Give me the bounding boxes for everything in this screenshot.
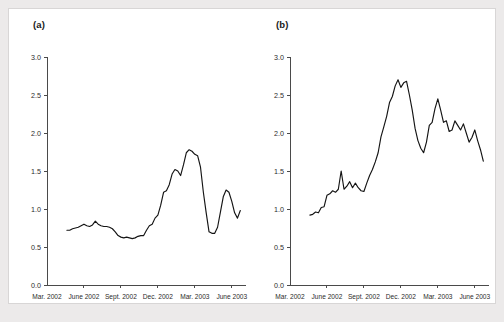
x-tick-label: Sept. 2002	[348, 293, 380, 301]
y-tick-label: 0.0	[31, 281, 41, 290]
x-tick-label: Dec. 2002	[143, 293, 173, 300]
x-tick-label: Mar. 2003	[423, 293, 453, 300]
series-line-path	[67, 150, 240, 239]
y-tick-label: 1.5	[274, 167, 284, 176]
y-tick-label: 1.0	[31, 205, 41, 214]
figure-inner-frame: (a) 0.00.51.01.52.02.53.0Mar. 2002June 2…	[8, 8, 496, 304]
y-tick-label: 2.5	[31, 91, 41, 100]
y-tick-label: 2.5	[274, 91, 284, 100]
x-tick-label: June 2003	[459, 293, 490, 300]
y-tick-label: 0.5	[274, 243, 284, 252]
x-tick-label: Mar. 2002	[275, 293, 305, 300]
x-tick-label: Mar. 2002	[32, 293, 62, 300]
x-tick-label: June 2003	[216, 293, 247, 300]
y-tick-label: 1.5	[31, 167, 41, 176]
panel-a: (a) 0.00.51.01.52.02.53.0Mar. 2002June 2…	[9, 9, 252, 303]
y-tick-label: 0.5	[31, 243, 41, 252]
figure-container: (a) 0.00.51.01.52.02.53.0Mar. 2002June 2…	[0, 0, 504, 322]
y-tick-label: 3.0	[31, 53, 41, 62]
y-tick-label: 0.0	[274, 281, 284, 290]
y-tick-label: 2.0	[274, 129, 284, 138]
x-tick-label: Dec. 2002	[386, 293, 416, 300]
x-tick-label: Mar. 2003	[180, 293, 210, 300]
y-tick-label: 1.0	[274, 205, 284, 214]
y-tick-label: 3.0	[274, 53, 284, 62]
panel-b-plot: 0.00.51.01.52.02.53.0Mar. 2002June 2002S…	[252, 9, 496, 303]
panel-a-plot: 0.00.51.01.52.02.53.0Mar. 2002June 2002S…	[9, 9, 253, 303]
y-tick-label: 2.0	[31, 129, 41, 138]
panel-b: (b) 0.00.51.01.52.02.53.0Mar. 2002June 2…	[252, 9, 495, 303]
series-line-path	[310, 80, 483, 215]
x-tick-label: June 2002	[69, 293, 100, 300]
x-tick-label: June 2002	[312, 293, 343, 300]
x-tick-label: Sept. 2002	[105, 293, 137, 301]
